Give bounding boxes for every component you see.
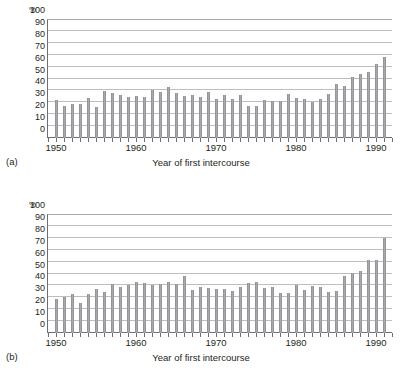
x-tick — [104, 333, 105, 337]
x-tick — [280, 138, 281, 142]
bar — [223, 95, 226, 138]
bar — [199, 97, 202, 138]
x-tick — [232, 333, 233, 337]
bar — [103, 91, 106, 138]
x-tick — [328, 333, 329, 337]
bar — [71, 104, 74, 138]
bar — [279, 101, 282, 138]
bar — [143, 283, 146, 333]
bar-series-b — [48, 214, 392, 333]
y-axis-labels-a: 0102030405060708090100 — [0, 19, 45, 138]
y-tick-label: 50 — [1, 260, 45, 269]
bar — [175, 93, 178, 138]
x-tick — [360, 138, 361, 142]
x-tick — [240, 333, 241, 337]
y-tick-label: 10 — [1, 113, 45, 122]
y-tick-label: 100 — [1, 201, 45, 210]
bar — [271, 287, 274, 333]
x-axis-labels-b: 19501960197019801990 — [0, 338, 402, 350]
bar — [311, 102, 314, 138]
y-tick-label: 40 — [1, 272, 45, 281]
bar — [135, 96, 138, 138]
x-tick — [312, 333, 313, 337]
y-tick-label: 40 — [1, 77, 45, 86]
bar — [159, 92, 162, 138]
x-tick — [344, 138, 345, 142]
bar — [207, 288, 210, 333]
x-tick-label: 1990 — [365, 338, 386, 348]
x-tick — [112, 138, 113, 142]
bar — [63, 297, 66, 333]
y-tick-label: 20 — [1, 296, 45, 305]
x-tick — [120, 138, 121, 142]
bar — [383, 238, 386, 333]
x-tick-label: 1990 — [365, 143, 386, 153]
bar — [95, 107, 98, 138]
x-tick — [104, 138, 105, 142]
x-tick — [160, 333, 161, 337]
bar — [175, 284, 178, 333]
x-tick — [72, 333, 73, 337]
x-tick — [168, 138, 169, 142]
bar — [287, 293, 290, 333]
y-tick-label: 80 — [1, 29, 45, 38]
bar — [55, 299, 58, 334]
x-tick — [312, 138, 313, 142]
bar — [79, 104, 82, 138]
y-tick-label: 10 — [1, 308, 45, 317]
bar — [71, 294, 74, 333]
bar — [239, 287, 242, 333]
bar — [343, 86, 346, 138]
y-tick-label: 60 — [1, 53, 45, 62]
y-tick-label: 70 — [1, 236, 45, 245]
bar — [79, 303, 82, 333]
bar — [311, 286, 314, 333]
x-tick-label: 1950 — [45, 143, 66, 153]
bar — [119, 95, 122, 138]
x-tick-label: 1970 — [205, 338, 226, 348]
bar — [103, 292, 106, 333]
x-tick — [320, 333, 321, 337]
x-tick-label: 1950 — [45, 338, 66, 348]
bar — [127, 285, 130, 333]
x-tick — [320, 138, 321, 142]
bar — [167, 87, 170, 138]
bar — [287, 94, 290, 138]
x-tick — [200, 333, 201, 337]
chart-panel-a: % 0102030405060708090100 195019601970198… — [0, 0, 402, 195]
bar — [199, 287, 202, 333]
bar — [207, 92, 210, 138]
bar — [375, 260, 378, 333]
bar — [247, 283, 250, 333]
x-tick — [176, 138, 177, 142]
y-tick-label: 90 — [1, 212, 45, 221]
bar — [231, 99, 234, 138]
x-tick — [264, 333, 265, 337]
x-tick — [264, 138, 265, 142]
x-tick — [248, 333, 249, 337]
x-tick-label: 1980 — [285, 143, 306, 153]
y-tick-label: 0 — [1, 125, 45, 134]
bar — [223, 289, 226, 333]
bar — [383, 57, 386, 139]
bar — [295, 98, 298, 138]
x-tick — [192, 333, 193, 337]
y-tick-label: 20 — [1, 101, 45, 110]
x-tick — [88, 138, 89, 142]
x-tick — [344, 333, 345, 337]
y-tick-label: 50 — [1, 65, 45, 74]
x-tick — [256, 138, 257, 142]
bar — [111, 93, 114, 138]
y-tick-label: 60 — [1, 248, 45, 257]
bar — [375, 64, 378, 138]
x-tick — [96, 138, 97, 142]
x-tick — [256, 333, 257, 337]
x-tick — [392, 138, 393, 142]
bar — [319, 99, 322, 138]
bar — [119, 287, 122, 333]
bar — [63, 106, 66, 138]
bar — [263, 288, 266, 333]
bar — [327, 94, 330, 138]
x-tick — [336, 138, 337, 142]
x-axis-title-b: Year of first intercourse — [0, 353, 402, 363]
